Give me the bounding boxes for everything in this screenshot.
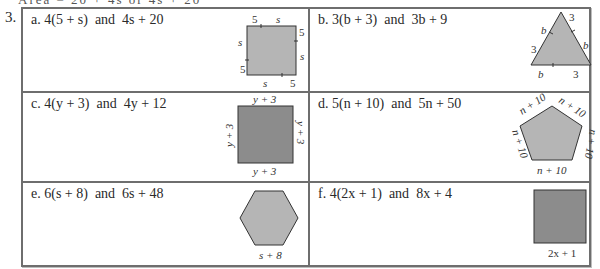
side-label: 5 (252, 13, 258, 25)
expression-d: d. 5(n + 10) and 5n + 50 (318, 96, 461, 112)
svg-text:b: b (583, 39, 589, 51)
hexagon-figure-e: s + 8 (235, 185, 307, 265)
square-figure-c: y + 3 y + 3 y + 3 y + 3 (223, 93, 308, 181)
svg-text:y + 3: y + 3 (295, 120, 307, 145)
svg-text:3: 3 (573, 68, 579, 80)
svg-text:s: s (300, 50, 304, 62)
svg-text:y + 3: y + 3 (252, 165, 277, 177)
svg-text:s + 8: s + 8 (259, 249, 282, 261)
svg-text:b: b (538, 68, 544, 80)
svg-text:5: 5 (240, 63, 246, 75)
svg-text:s: s (238, 36, 242, 48)
cell-e: e. 6(s + 8) and 6s + 48 s + 8 (23, 183, 308, 265)
problem-number: 3. (5, 9, 16, 26)
svg-text:y + 3: y + 3 (252, 93, 277, 105)
svg-text:b: b (541, 24, 547, 36)
svg-text:s: s (263, 77, 267, 89)
svg-text:3: 3 (531, 43, 537, 55)
expression-a: a. 4(5 + s) and 4s + 20 (31, 12, 163, 28)
svg-text:3: 3 (569, 11, 575, 23)
cell-a: a. 4(5 + s) and 4s + 20 5 s 5 s 5 s 5 s (23, 9, 308, 91)
svg-text:2x + 1: 2x + 1 (548, 247, 576, 259)
expression-f: f. 4(2x + 1) and 8x + 4 (318, 186, 452, 202)
cell-f: f. 4(2x + 1) and 8x + 4 2x + 1 (310, 183, 589, 265)
expression-c: c. 4(y + 3) and 4y + 12 (31, 96, 167, 112)
svg-text:y + 3: y + 3 (223, 123, 235, 148)
svg-text:n + 10: n + 10 (537, 164, 567, 176)
svg-text:5: 5 (299, 26, 305, 38)
cell-b: b. 3(b + 3) and 3b + 9 b 3 3 b b 3 (310, 9, 589, 91)
square-figure-f: 2x + 1 (532, 185, 592, 265)
svg-text:5: 5 (290, 77, 296, 89)
expression-e: e. 6(s + 8) and 6s + 48 (31, 186, 163, 202)
exercise-table: a. 4(5 + s) and 4s + 20 5 s 5 s 5 s 5 s … (21, 7, 591, 267)
square-figure-a: 5 s 5 s 5 s 5 s (235, 14, 310, 89)
triangle-figure-b: b 3 3 b b 3 (525, 9, 597, 91)
expression-b: b. 3(b + 3) and 3b + 9 (318, 12, 447, 28)
svg-text:n + 10: n + 10 (583, 129, 600, 161)
pentagon-figure-d: n + 10 n + 10 n + 10 n + 10 n + 10 (510, 93, 596, 181)
cell-d: d. 5(n + 10) and 5n + 50 n + 10 n + 10 n… (310, 93, 589, 181)
svg-text:s: s (276, 13, 280, 25)
cell-c: c. 4(y + 3) and 4y + 12 y + 3 y + 3 y + … (23, 93, 308, 181)
